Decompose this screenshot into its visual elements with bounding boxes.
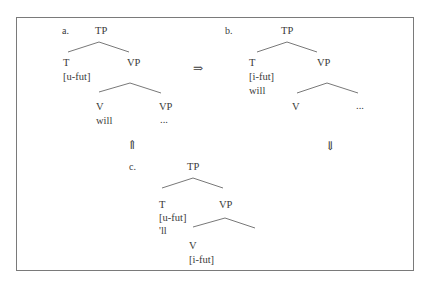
tree-a-v: V — [96, 101, 104, 113]
tree-a-t: T — [63, 57, 69, 69]
tree-branches — [0, 0, 429, 286]
tree-a-inner-vp-content: ... — [160, 114, 168, 126]
tree-c-label: c. — [129, 161, 136, 173]
tree-b-t-word: will — [249, 85, 265, 97]
tree-a-t-feature: [u-fut] — [63, 71, 90, 83]
tree-c-vp: VP — [219, 199, 232, 211]
tree-c-v: V — [189, 240, 197, 252]
tree-a-inner-vp: VP — [159, 101, 172, 113]
tree-b-vp-content: ... — [356, 100, 364, 112]
arrow-up-icon: ⇑ — [127, 139, 137, 151]
arrow-down-icon: ⇓ — [325, 140, 335, 152]
tree-a-label: a. — [62, 25, 69, 37]
tree-a-vp: VP — [127, 57, 140, 69]
tree-c-t: T — [159, 199, 165, 211]
tree-c-v-feature: [i-fut] — [189, 254, 214, 266]
tree-c-t-feature: [u-fut] — [159, 212, 186, 224]
tree-b-t-feature: [i-fut] — [249, 71, 274, 83]
tree-b-v: V — [292, 101, 300, 113]
tree-a-v-word: will — [96, 115, 112, 127]
tree-b-vp: VP — [317, 57, 330, 69]
tree-b-t: T — [249, 57, 255, 69]
tree-b-label: b. — [225, 25, 233, 37]
arrow-right-icon: ⇒ — [193, 62, 203, 74]
tree-a-tp: TP — [95, 25, 107, 37]
tree-c-t-word: 'll — [159, 225, 167, 237]
tree-b-tp: TP — [281, 25, 293, 37]
tree-c-tp: TP — [187, 161, 199, 173]
